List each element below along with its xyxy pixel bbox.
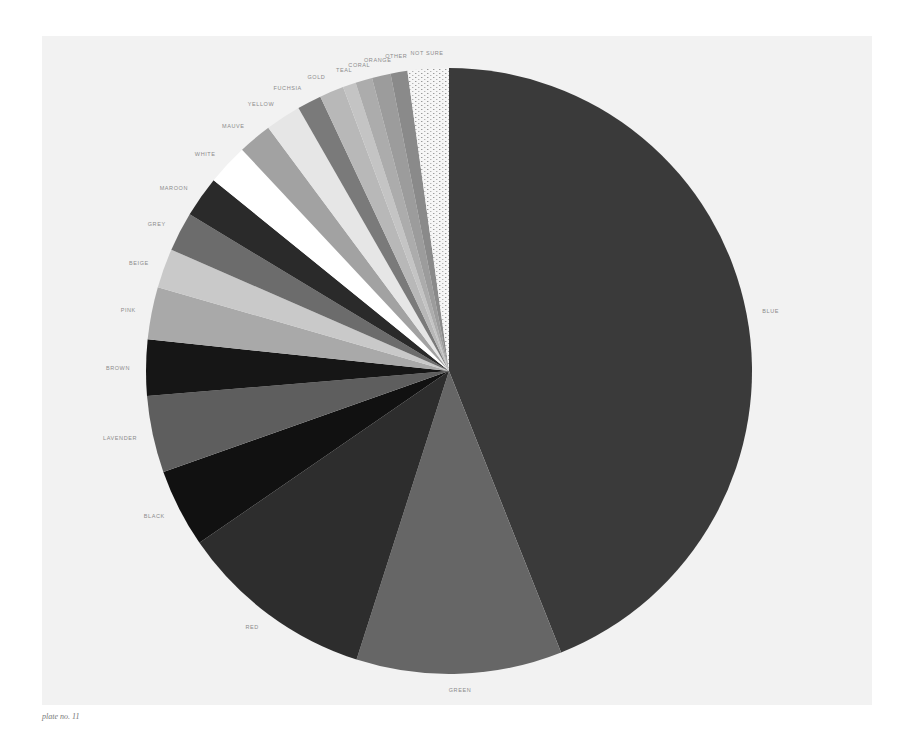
pie-chart: BLUEGREENREDBLACKLAVENDERBROWNPINKBEIGEG… (0, 0, 911, 749)
pie-label-maroon: MAROON (160, 185, 188, 191)
pie-label-fuchsia: FUCHSIA (274, 85, 302, 91)
pie-label-not-sure: NOT SURE (410, 50, 443, 56)
pie-label-white: WHITE (195, 151, 216, 157)
pie-label-brown: BROWN (106, 365, 130, 371)
pie-label-lavender: LAVENDER (103, 435, 137, 441)
pie-label-grey: GREY (148, 221, 166, 227)
pie-label-other: OTHER (385, 53, 407, 59)
pie-label-gold: GOLD (307, 74, 325, 80)
pie-label-beige: BEIGE (129, 260, 149, 266)
pie-slices (146, 68, 752, 674)
pie-label-pink: PINK (121, 307, 136, 313)
pie-label-yellow: YELLOW (248, 101, 275, 107)
pie-label-red: RED (245, 624, 258, 630)
pie-label-mauve: MAUVE (222, 123, 245, 129)
pie-label-black: BLACK (144, 513, 165, 519)
plate-caption: plate no. 11 (42, 712, 79, 721)
pie-label-green: GREEN (449, 687, 472, 693)
pie-label-blue: BLUE (762, 308, 779, 314)
